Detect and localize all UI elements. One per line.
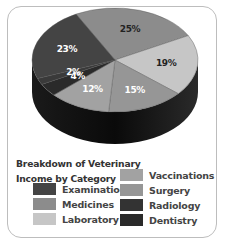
legend-item-medicines: Medicines — [33, 198, 114, 210]
legend-item-radiology: Radiology — [120, 199, 200, 211]
pie-chart: 25%19%15%12%4%2%23% — [0, 0, 226, 160]
slice-label-medicines: 25% — [120, 24, 141, 34]
slice-label-surgery: 15% — [125, 85, 146, 95]
legend-label: Radiology — [149, 200, 200, 211]
legend-swatch — [120, 184, 143, 196]
legend-swatch — [33, 213, 56, 225]
legend-item-examinations: Examinations — [33, 183, 132, 195]
legend-swatch — [33, 198, 56, 210]
legend-label: Medicines — [62, 199, 114, 210]
slice-label-radiology: 2% — [66, 67, 81, 77]
legend-swatch — [120, 214, 143, 226]
legend-item-surgery: Surgery — [120, 184, 190, 196]
legend-swatch — [120, 169, 143, 181]
legend-item-laboratory: Laboratory — [33, 213, 119, 225]
legend-item-vaccinations: Vaccinations — [120, 169, 214, 181]
slice-label-laboratory: 19% — [156, 58, 177, 68]
legend-label: Dentistry — [149, 215, 197, 226]
legend-label: Vaccinations — [149, 170, 214, 181]
legend-swatch — [33, 183, 56, 195]
legend-label: Surgery — [149, 185, 190, 196]
slice-label-vaccinations: 12% — [82, 84, 103, 94]
legend-item-dentistry: Dentistry — [120, 214, 197, 226]
slice-label-examinations: 23% — [57, 44, 78, 54]
legend-label: Laboratory — [62, 214, 119, 225]
legend-swatch — [120, 199, 143, 211]
